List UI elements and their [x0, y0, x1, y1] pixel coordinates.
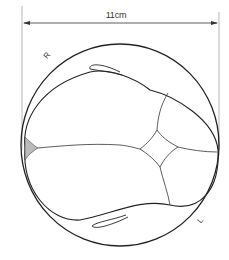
fetal-head-outline [25, 71, 218, 220]
dimension-label: 11cm [98, 10, 134, 20]
posterior-fontanelle [25, 137, 38, 160]
pelvic-inlet-diagram [0, 0, 229, 260]
dimension-line [23, 21, 218, 25]
ear-lower [92, 215, 128, 227]
ear-upper [90, 65, 122, 75]
